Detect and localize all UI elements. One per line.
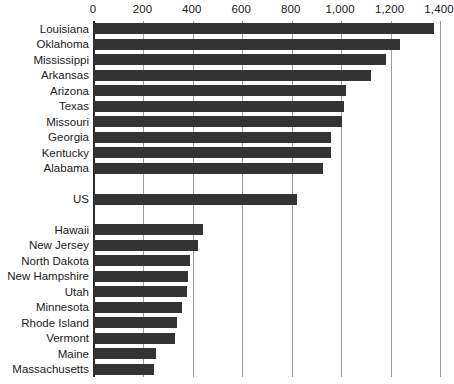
bar [94,240,198,251]
bar [94,147,331,158]
category-label: Hawaii [0,225,89,236]
bar [94,364,154,375]
x-tick-label-800: 800 [281,3,301,15]
bar [94,101,344,112]
category-label: New Jersey [0,240,89,251]
category-label: Mississippi [0,55,89,66]
category-label: Oklahoma [0,39,89,50]
category-label: Missouri [0,117,89,128]
category-label: Alabama [0,163,89,174]
plot-area [93,21,439,377]
x-tick-label-400: 400 [182,3,202,15]
category-label: Arkansas [0,70,89,81]
bar [94,70,371,81]
bar [94,271,188,282]
category-label: Vermont [0,333,89,344]
bar [94,194,297,205]
category-label: Minnesota [0,302,89,313]
bar [94,54,386,65]
category-label: Georgia [0,132,89,143]
bar [94,132,331,143]
x-tick-label-600: 600 [232,3,252,15]
category-label: Rhode Island [0,318,89,329]
bar [94,333,175,344]
bar [94,224,203,235]
category-label: Arizona [0,86,89,97]
x-tick-label-200: 200 [133,3,153,15]
x-tick-label-0: 0 [90,3,97,15]
bar [94,23,434,34]
category-label: New Hampshire [0,271,89,282]
category-label: Utah [0,287,89,298]
category-label: Kentucky [0,148,89,159]
bar [94,348,156,359]
category-label: Massachusetts [0,364,89,375]
y-axis-category-labels: LouisianaOklahomaMississippiArkansasAriz… [0,21,89,377]
bar [94,116,342,127]
x-tick-label-1000: 1,000 [326,3,355,15]
gridline-1200 [391,21,392,377]
x-tick-label-1400: 1,400 [424,3,453,15]
category-label: US [0,194,89,205]
bar [94,286,187,297]
bar [94,163,323,174]
x-axis-tick-labels: 02004006008001,0001,2001,400 [0,0,454,22]
category-label: Maine [0,349,89,360]
bar [94,255,190,266]
bar [94,302,182,313]
category-label: Louisiana [0,24,89,35]
bar [94,85,346,96]
bar-chart: 02004006008001,0001,2001,400 LouisianaOk… [0,0,454,384]
bar [94,317,177,328]
gridline-1400 [440,21,441,377]
category-label: North Dakota [0,256,89,267]
x-tick-label-1200: 1,200 [375,3,404,15]
category-label: Texas [0,101,89,112]
bar [94,39,400,50]
